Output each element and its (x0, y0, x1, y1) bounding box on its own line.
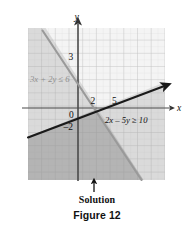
x-tick-label-2: 2 (91, 96, 96, 106)
inequality-label-2x-5y: 2x – 5y ≥ 10 (105, 115, 148, 125)
origin-label: 0 (69, 110, 74, 120)
y-tick-label-3: 3 (69, 52, 74, 62)
x-tick-label-5: 5 (112, 96, 117, 106)
inequality-label-3x-2y: 3x + 2y ≤ 6 (29, 74, 70, 84)
y-axis-label: y (74, 11, 80, 22)
coordinate-plane-graph: y x 0 3 –2 2 5 3x + 2y ≤ 6 2x – 5y ≥ 10 (0, 0, 194, 227)
figure-12-container: y x 0 3 –2 2 5 3x + 2y ≤ 6 2x – 5y ≥ 10 … (0, 0, 194, 227)
figure-caption: Figure 12 (0, 209, 194, 221)
y-tick-label-neg2: –2 (63, 122, 74, 132)
solution-label: Solution (0, 194, 194, 205)
x-axis-label: x (176, 103, 182, 113)
